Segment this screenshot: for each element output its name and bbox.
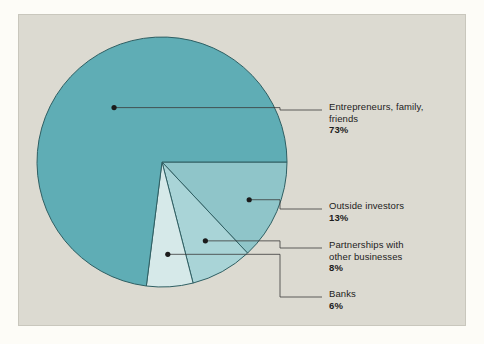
slice-percent: 6% [329, 300, 356, 312]
slice-callout-partnerships: Partnerships with other businesses 8% [329, 239, 404, 274]
slice-label-line1: Partnerships with [329, 239, 404, 251]
slice-label-line2: friends [329, 113, 423, 125]
slice-marker-dot-partnerships [203, 238, 208, 243]
slice-percent: 8% [329, 262, 404, 274]
slice-percent: 73% [329, 124, 423, 136]
slice-label-line1: Entrepreneurs, family, [329, 101, 423, 113]
slice-label-line2: other businesses [329, 251, 404, 263]
pie-slice-group [37, 37, 287, 287]
slice-label-line1: Banks [329, 288, 356, 300]
slice-callout-banks: Banks 6% [329, 288, 356, 311]
figure-root: Entrepreneurs, family, friends 73% Outsi… [0, 0, 484, 344]
slice-marker-dot-outside-investors [247, 197, 252, 202]
slice-percent: 13% [329, 212, 404, 224]
slice-label-line1: Outside investors [329, 200, 404, 212]
slice-callout-outside-investors: Outside investors 13% [329, 200, 404, 223]
slice-marker-dot-entrepreneurs [111, 105, 116, 110]
pie-chart [0, 0, 484, 344]
slice-callout-entrepreneurs: Entrepreneurs, family, friends 73% [329, 101, 423, 136]
slice-marker-dot-banks [165, 252, 170, 257]
